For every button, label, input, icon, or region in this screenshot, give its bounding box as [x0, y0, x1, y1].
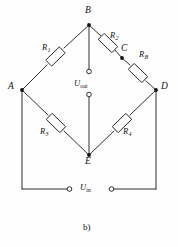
- node-dot-a: [20, 88, 24, 92]
- resistor-label-r3: R3: [40, 127, 48, 136]
- resistor-rb-body: [128, 63, 148, 82]
- arm-b-c: [89, 25, 122, 58]
- node-dot-c: [120, 56, 124, 60]
- node-label-b: B: [85, 6, 91, 16]
- resistor-label-r4: R4: [123, 127, 131, 136]
- resistor-label-r3-sub: 3: [45, 131, 48, 137]
- terminal-uout-bottom[interactable]: [87, 92, 92, 97]
- node-dot-b: [87, 23, 91, 27]
- voltage-label-uin-sub: in: [86, 187, 90, 193]
- node-label-e: E: [85, 157, 91, 167]
- resistor-label-r4-sub: 4: [128, 131, 131, 137]
- arm-a-e: [22, 90, 89, 155]
- circuit-figure: B A C D E R1 R2 RB R3 R4 Uout Uin b): [0, 0, 178, 247]
- resistor-label-r2: R2: [110, 31, 118, 40]
- node-label-a: A: [8, 82, 14, 92]
- resistor-r3-body: [46, 113, 66, 132]
- arm-e-d: [89, 90, 156, 155]
- node-dot-d: [154, 88, 158, 92]
- terminal-uin-right[interactable]: [109, 187, 114, 192]
- voltage-label-uout-sub: out: [80, 83, 87, 89]
- resistor-label-r1-sub: 1: [47, 47, 50, 53]
- node-label-c: C: [121, 44, 127, 54]
- figure-caption: b): [83, 222, 91, 232]
- node-label-d: D: [161, 82, 168, 92]
- arm-c-d: [122, 58, 156, 90]
- circuit-schematic: [0, 0, 178, 247]
- voltage-label-uin: Uin: [80, 183, 91, 192]
- resistor-label-r1: R1: [42, 43, 50, 52]
- resistor-label-rb: RB: [139, 50, 148, 59]
- resistor-label-rb-sub: B: [144, 54, 148, 60]
- terminal-uout-top[interactable]: [87, 69, 92, 74]
- voltage-label-uout: Uout: [74, 79, 87, 88]
- resistor-label-r2-sub: 2: [115, 35, 118, 41]
- terminal-uin-left[interactable]: [67, 187, 72, 192]
